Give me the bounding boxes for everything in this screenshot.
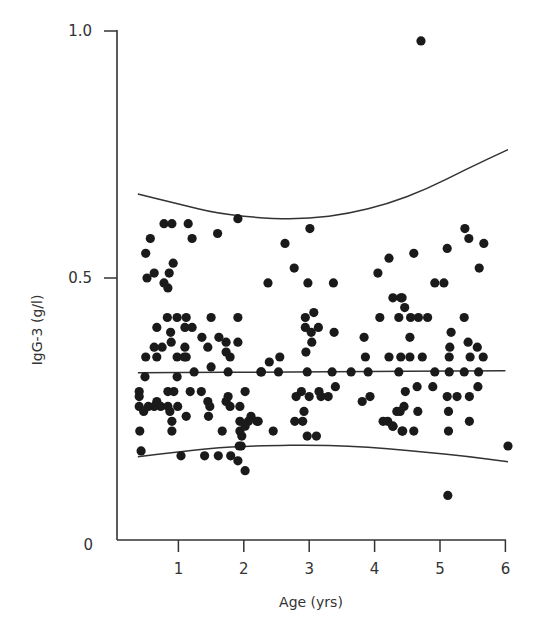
data-point [443, 491, 452, 500]
x-tick-label: 1 [174, 560, 184, 578]
data-point [460, 313, 469, 322]
data-point [190, 367, 199, 376]
data-point [141, 249, 150, 258]
data-point [401, 387, 410, 396]
data-point [331, 382, 340, 391]
data-point [275, 352, 284, 361]
data-point [197, 387, 206, 396]
x-axis-title: Age (yrs) [279, 594, 343, 610]
x-tick-label: 3 [304, 560, 314, 578]
x-tick-label: 4 [370, 560, 380, 578]
data-point [165, 269, 174, 278]
data-point [444, 427, 453, 436]
data-point [165, 407, 174, 416]
data-point [452, 392, 461, 401]
data-point [241, 466, 250, 475]
data-point [428, 382, 437, 391]
data-point [207, 313, 216, 322]
data-point [173, 402, 182, 411]
data-point [254, 417, 263, 426]
data-point [152, 352, 161, 361]
data-point [274, 367, 283, 376]
data-point [169, 259, 178, 268]
data-point [373, 269, 382, 278]
upper-reference-curve [138, 150, 508, 219]
data-points [135, 36, 513, 500]
data-point [394, 367, 403, 376]
data-point [237, 432, 246, 441]
data-point [186, 387, 195, 396]
data-point [176, 451, 185, 460]
data-point [447, 328, 456, 337]
y-tick-label: 0 [83, 536, 93, 554]
data-point [464, 338, 473, 347]
data-point [150, 343, 159, 352]
data-point [207, 362, 216, 371]
data-point [503, 441, 512, 450]
data-point [466, 352, 475, 361]
data-point [182, 352, 191, 361]
data-point [330, 328, 339, 337]
data-point [159, 219, 168, 228]
data-point [398, 293, 407, 302]
data-point [309, 308, 318, 317]
data-point [241, 387, 250, 396]
data-point [416, 36, 425, 45]
data-point [445, 367, 454, 376]
data-point [388, 422, 397, 431]
data-point [364, 367, 373, 376]
data-point [222, 338, 231, 347]
x-ticks: 123456 [174, 540, 511, 578]
data-point [444, 407, 453, 416]
data-point [292, 392, 301, 401]
data-point [396, 352, 405, 361]
data-point [473, 382, 482, 391]
data-point [214, 451, 223, 460]
data-point [224, 367, 233, 376]
y-ticks: 00.51.0 [68, 22, 117, 554]
data-point [413, 407, 422, 416]
data-point [405, 333, 414, 342]
data-point [307, 338, 316, 347]
data-point [479, 239, 488, 248]
data-point [460, 224, 469, 233]
data-point [235, 402, 244, 411]
data-point [158, 343, 167, 352]
data-point [188, 323, 197, 332]
x-tick-label: 5 [435, 560, 445, 578]
data-point [445, 343, 454, 352]
x-tick-label: 2 [239, 560, 249, 578]
data-point [135, 392, 144, 401]
data-point [361, 352, 370, 361]
data-point [167, 338, 176, 347]
data-point [290, 417, 299, 426]
data-point [414, 313, 423, 322]
data-point [307, 328, 316, 337]
lower-reference-curve [138, 445, 508, 462]
data-point [365, 392, 374, 401]
data-point [443, 392, 452, 401]
data-point [269, 427, 278, 436]
data-point [163, 283, 172, 292]
data-point [184, 219, 193, 228]
data-point [305, 392, 314, 401]
data-point [263, 278, 272, 287]
data-point [329, 278, 338, 287]
data-point [396, 407, 405, 416]
reference-curves [138, 150, 508, 462]
data-point [347, 367, 356, 376]
data-point [328, 367, 337, 376]
data-point [360, 333, 369, 342]
data-point [188, 234, 197, 243]
data-point [226, 402, 235, 411]
data-point [398, 427, 407, 436]
data-point [301, 348, 310, 357]
data-point [375, 313, 384, 322]
data-point [290, 264, 299, 273]
data-point [460, 367, 469, 376]
data-point [430, 278, 439, 287]
data-point [224, 392, 233, 401]
data-point [305, 224, 314, 233]
data-point [182, 313, 191, 322]
data-point [474, 367, 483, 376]
